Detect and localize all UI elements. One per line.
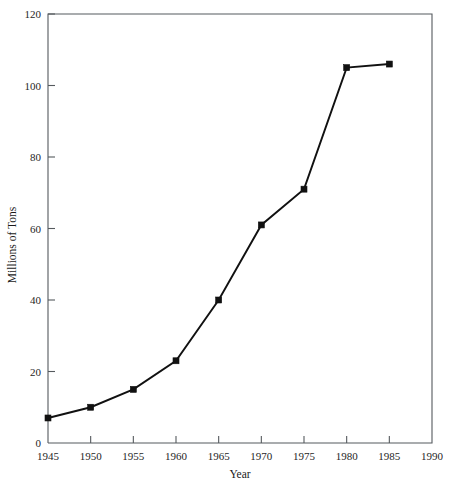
- x-tick-label-1970: 1970: [250, 450, 273, 462]
- x-tick-label-1980: 1980: [336, 450, 359, 462]
- data-point-1955: [130, 386, 136, 392]
- y-tick-label-60: 60: [30, 223, 42, 235]
- x-axis-title: Year: [229, 468, 250, 480]
- data-point-1975: [301, 186, 307, 192]
- y-tick-label-100: 100: [25, 80, 42, 92]
- data-point-1965: [216, 297, 222, 303]
- y-tick-label-20: 20: [30, 366, 42, 378]
- x-tick-label-1975: 1975: [293, 450, 316, 462]
- y-tick-label-0: 0: [36, 437, 42, 449]
- line-chart: 020406080100120 194519501955196019651970…: [0, 0, 454, 485]
- x-tick-label-1955: 1955: [122, 450, 145, 462]
- data-point-1950: [88, 404, 94, 410]
- x-tick-label-1945: 1945: [37, 450, 60, 462]
- data-point-1960: [173, 358, 179, 364]
- x-tick-label-1985: 1985: [378, 450, 401, 462]
- chart-canvas: 020406080100120 194519501955196019651970…: [0, 0, 454, 485]
- x-tick-label-1990: 1990: [421, 450, 444, 462]
- y-tick-label-120: 120: [25, 8, 42, 20]
- x-tick-label-1960: 1960: [165, 450, 188, 462]
- data-point-1970: [258, 222, 264, 228]
- y-axis-title: Millions of Tons: [6, 206, 18, 283]
- y-tick-label-40: 40: [30, 294, 42, 306]
- x-tick-label-1965: 1965: [208, 450, 231, 462]
- data-point-1985: [386, 61, 392, 67]
- data-point-1980: [344, 65, 350, 71]
- data-point-1945: [45, 415, 51, 421]
- x-tick-label-1950: 1950: [80, 450, 103, 462]
- y-tick-label-80: 80: [30, 151, 42, 163]
